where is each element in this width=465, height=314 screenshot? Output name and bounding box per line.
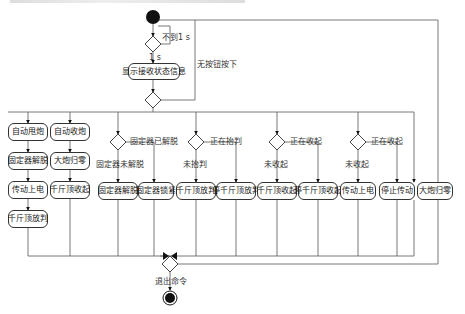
activity-stop-jack-retract: 停千斤顶收起 [298,182,338,200]
activity-jack-lower-2: 千斤顶放判 [176,182,216,200]
guard-lifting: 正在抬判 [210,137,242,147]
activity-gun-zero: 大炮归零 [50,152,90,170]
activity-show-status: 显示接收状态信息 [128,63,180,80]
guard-fix-not-released: 固定器未解脱 [96,160,144,170]
activity-release-fixture-2: 固定器解脱 [98,182,138,200]
activity-stop-jack-lower: 停千斤顶放判 [216,182,256,200]
guard-not-retracted-2: 未收起 [345,160,369,170]
activity-gun-zero-2: 大炮归零 [417,182,453,200]
guard-exit: 退出命令 [155,277,187,287]
guard-retracting-2: 正在收起 [371,137,403,147]
activity-auto-deploy: 自动甩炮 [8,123,48,141]
guard-not-lifted: 未抬判 [183,160,207,170]
activity-auto-stow: 自动收炮 [50,123,90,141]
activity-jack-retract: 千斤顶收起 [50,181,90,199]
guard-retracting-1: 正在收起 [290,137,322,147]
activity-jack-retract-2: 千斤顶收起 [257,182,297,200]
guard-1s: 1 s [149,53,161,63]
activity-lock-fixture: 固定器锁紧 [138,182,174,200]
final-node [165,293,175,303]
guard-fix-released: 固定器已解脱 [130,137,178,147]
activity-power-on: 传动上电 [8,181,48,199]
activity-power-on-2: 传动上电 [340,182,376,200]
guard-not-retracted-1: 未收起 [264,160,288,170]
initial-node [146,10,160,24]
guard-not-1s: 不到1 s [162,33,190,43]
activity-jack-lower: 千斤顶放判 [8,210,48,228]
guard-no-button: 无按钮按下 [197,60,237,70]
activity-stop-drive: 停止传动 [379,182,415,200]
activity-release-fixture: 固定器解脱 [8,152,48,170]
